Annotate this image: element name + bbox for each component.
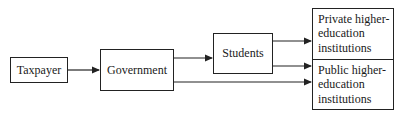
node-government-label: Government <box>107 63 167 77</box>
node-government: Government <box>100 49 174 91</box>
node-public-institutions-label: Public higher- education institutions <box>318 63 386 106</box>
node-private-institutions: Private higher- education institutions <box>312 8 394 60</box>
node-students: Students <box>213 33 273 74</box>
node-students-label: Students <box>222 46 263 60</box>
node-taxpayer: Taxpayer <box>10 57 68 83</box>
node-taxpayer-label: Taxpayer <box>17 63 61 77</box>
node-public-institutions: Public higher- education institutions <box>312 59 394 110</box>
node-private-institutions-label: Private higher- education institutions <box>318 12 389 55</box>
